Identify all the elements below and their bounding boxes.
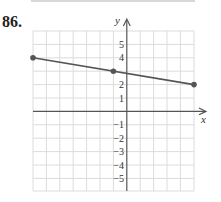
y-tick-4: 4 bbox=[119, 52, 124, 63]
y-tick-2: 2 bbox=[119, 79, 124, 90]
y-tick-1: 1 bbox=[119, 93, 124, 104]
y-tick-neg3: −3 bbox=[113, 146, 124, 157]
y-tick-neg5: −5 bbox=[113, 173, 124, 184]
y-tick-5: 5 bbox=[119, 39, 124, 50]
point-right bbox=[191, 82, 197, 88]
y-tick-neg1: −1 bbox=[113, 119, 124, 130]
point-middle bbox=[111, 68, 117, 74]
y-tick-neg2: −2 bbox=[113, 133, 124, 144]
coordinate-plane: x y 5 4 2 1 −1 −2 −3 −4 −5 bbox=[0, 0, 221, 202]
x-axis-label: x bbox=[200, 113, 206, 125]
y-tick-neg4: −4 bbox=[113, 160, 124, 171]
y-axis-label: y bbox=[114, 14, 120, 26]
point-left bbox=[30, 55, 36, 61]
